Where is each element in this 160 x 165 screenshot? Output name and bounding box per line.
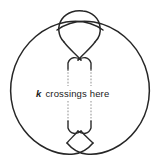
top-small-loop [59, 11, 100, 42]
right-strand-lower-shoulder [78, 121, 91, 133]
knot-diagram-svg: kcrossings here [0, 0, 160, 165]
caption-label: kcrossings here [36, 88, 109, 99]
right-strand-shoulder [78, 58, 91, 70]
caption-variable: k [36, 88, 42, 99]
caption-body: crossings here [45, 88, 109, 99]
knot-diagram: kcrossings here [0, 0, 160, 165]
